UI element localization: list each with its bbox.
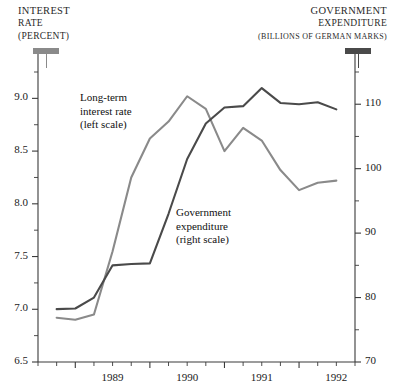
annotation-expenditure-line-3: (right scale) xyxy=(176,233,231,247)
right-scale-swatch xyxy=(345,48,371,68)
right-axis-tick-label: 70 xyxy=(365,354,393,366)
right-axis-title-line-1: Government xyxy=(258,4,387,17)
x-axis-tick-label: 1991 xyxy=(237,371,287,383)
x-axis-tick-label: 1989 xyxy=(88,371,138,383)
right-axis-tick-label: 100 xyxy=(365,161,393,173)
left-scale-swatch xyxy=(33,48,59,68)
annotation-expenditure-line-2: expenditure xyxy=(176,220,231,234)
right-axis-tick-label: 110 xyxy=(365,96,393,108)
chart-figure: Interest rate (percent) Government expen… xyxy=(0,0,393,389)
left-axis-title: Interest rate (percent) xyxy=(18,4,70,43)
x-axis-tick-label: 1992 xyxy=(311,371,361,383)
annotation-interest-rate-line-1: Long-term xyxy=(80,91,132,105)
left-axis-title-line-3: (percent) xyxy=(18,30,70,43)
left-axis-tick-label: 6.5 xyxy=(0,354,28,366)
annotation-interest-rate: Long-term interest rate (left scale) xyxy=(80,91,132,132)
right-axis-title-line-3: (billions of German marks) xyxy=(258,30,387,43)
annotation-expenditure-line-1: Government xyxy=(176,206,231,220)
x-axis-tick-label: 1990 xyxy=(162,371,212,383)
left-axis-tick-label: 8.0 xyxy=(0,196,28,208)
left-axis-tick-label: 7.0 xyxy=(0,301,28,313)
right-axis-title-line-2: expenditure xyxy=(258,17,387,30)
annotation-interest-rate-line-2: interest rate xyxy=(80,105,132,119)
right-axis-title: Government expenditure (billions of Germ… xyxy=(258,4,387,43)
left-scale-swatch-stem xyxy=(46,54,47,68)
right-axis-tick-label: 80 xyxy=(365,290,393,302)
left-axis-tick-label: 8.5 xyxy=(0,143,28,155)
left-axis-title-line-2: rate xyxy=(18,17,70,30)
left-axis-tick-label: 7.5 xyxy=(0,249,28,261)
right-axis-tick-label: 90 xyxy=(365,225,393,237)
right-scale-swatch-stem xyxy=(358,54,359,68)
left-axis-tick-label: 9.0 xyxy=(0,90,28,102)
annotation-interest-rate-line-3: (left scale) xyxy=(80,118,132,132)
left-axis-title-line-1: Interest xyxy=(18,4,70,17)
annotation-expenditure: Government expenditure (right scale) xyxy=(176,206,231,247)
